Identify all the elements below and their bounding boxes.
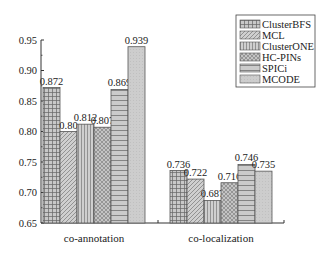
bar-mcl-co-annotation — [60, 132, 77, 224]
value-label: 0.939 — [125, 35, 149, 46]
bar-hc-pins-co-annotation — [94, 127, 111, 223]
y-tick-label: 0.70 — [19, 187, 37, 198]
value-label: 0.735 — [252, 159, 276, 170]
bar-mcl-co-localization — [187, 179, 204, 223]
bar-spici-co-annotation — [111, 89, 128, 223]
legend-swatch — [240, 20, 260, 28]
y-tick-label: 0.90 — [19, 65, 37, 76]
y-tick-label: 0.65 — [19, 218, 37, 229]
value-label: 0.722 — [184, 167, 208, 178]
legend-swatch — [240, 31, 260, 39]
legend-swatch — [240, 42, 260, 50]
bar-mcode-co-annotation — [128, 47, 145, 223]
bar-hc-pins-co-localization — [221, 183, 238, 223]
legend-label: SPICi — [262, 63, 287, 74]
bar-spici-co-localization — [238, 164, 255, 223]
y-tick-label: 0.95 — [19, 35, 37, 46]
bar-clusterbfs-co-annotation — [43, 88, 60, 223]
legend-label: MCODE — [262, 74, 300, 85]
bar-chart: 0.650.700.750.800.850.900.95 0.8720.800.… — [0, 0, 329, 255]
legend-label: MCL — [262, 30, 285, 41]
legend-label: HC-PINs — [262, 52, 301, 63]
legend-label: ClusterBFS — [262, 19, 311, 30]
bar-clusterone-co-localization — [204, 200, 221, 223]
legend-swatch — [240, 64, 260, 72]
bar-clusterone-co-annotation — [77, 124, 94, 223]
legend-swatch — [240, 75, 260, 83]
bar-mcode-co-localization — [255, 171, 272, 223]
legend-swatch — [240, 53, 260, 61]
legend-label: ClusterONE — [262, 41, 314, 52]
y-tick-label: 0.80 — [19, 126, 37, 137]
legend: ClusterBFSMCLClusterONEHC-PINsSPICiMCODE — [236, 15, 315, 87]
value-label: 0.872 — [40, 76, 64, 87]
category-label: co-annotation — [64, 232, 125, 244]
y-tick-label: 0.75 — [19, 157, 37, 168]
category-label: co-localization — [188, 232, 254, 244]
bar-clusterbfs-co-localization — [170, 171, 187, 223]
y-tick-label: 0.85 — [19, 96, 37, 107]
